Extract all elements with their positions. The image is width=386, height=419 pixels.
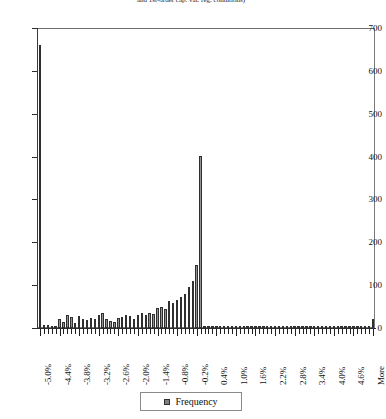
- x-tick-mark: [279, 329, 280, 334]
- x-tick-mark: [142, 329, 143, 334]
- x-tick-label: 2.2%: [279, 367, 288, 385]
- bar: [129, 316, 131, 328]
- x-tick-label: -0.8%: [181, 364, 190, 385]
- bar-series-frequency: [38, 28, 375, 328]
- bar: [215, 326, 217, 328]
- x-tick-mark: [99, 329, 100, 336]
- chart-legend: Frequency: [140, 392, 242, 411]
- bar: [333, 326, 335, 328]
- x-tick-label: -2.0%: [142, 364, 151, 385]
- bar: [62, 322, 64, 328]
- x-tick-mark: [134, 329, 135, 334]
- bar: [109, 321, 111, 328]
- bar: [133, 319, 135, 328]
- bar: [325, 326, 327, 328]
- x-tick-mark: [138, 329, 139, 336]
- bar: [270, 326, 272, 328]
- bar: [313, 326, 315, 328]
- x-tick-mark: [103, 329, 104, 334]
- bar: [231, 326, 233, 328]
- x-tick-mark: [283, 329, 284, 334]
- x-tick-mark: [326, 329, 327, 334]
- bar: [137, 315, 139, 328]
- x-tick-label: -4.4%: [64, 364, 73, 385]
- x-tick-mark: [60, 329, 61, 336]
- bar: [305, 326, 307, 328]
- bar: [74, 323, 76, 328]
- bar: [58, 319, 60, 328]
- x-tick-label: 4.6%: [357, 367, 366, 385]
- bar: [145, 315, 147, 328]
- bar: [309, 326, 311, 328]
- x-tick-mark: [346, 329, 347, 334]
- x-tick-mark: [173, 329, 174, 334]
- bar: [337, 326, 339, 328]
- bar: [293, 326, 295, 328]
- bar: [340, 326, 342, 328]
- x-tick-mark: [299, 329, 300, 334]
- bar: [344, 326, 346, 328]
- x-tick-mark: [267, 329, 268, 334]
- x-tick-mark: [232, 329, 233, 334]
- bar: [156, 308, 158, 328]
- bar: [180, 297, 182, 328]
- x-tick-mark: [342, 329, 343, 334]
- bar: [219, 326, 221, 328]
- bar: [356, 326, 358, 328]
- bar: [86, 320, 88, 328]
- legend-label-frequency: Frequency: [175, 397, 217, 407]
- x-tick-mark: [310, 329, 311, 334]
- x-axis-labels: -5.0%-4.4%-3.8%-3.2%-2.6%-2.0%-1.4%-0.8%…: [0, 337, 382, 389]
- bar: [203, 326, 205, 328]
- bar: [101, 313, 103, 328]
- x-tick-mark: [91, 329, 92, 334]
- x-tick-mark: [122, 329, 123, 334]
- x-tick-mark: [338, 329, 339, 334]
- x-tick-mark: [212, 329, 213, 334]
- x-tick-mark: [306, 329, 307, 334]
- x-tick-mark: [130, 329, 131, 334]
- x-tick-mark: [126, 329, 127, 334]
- x-tick-mark: [287, 329, 288, 334]
- bar: [301, 326, 303, 328]
- x-tick-mark: [318, 329, 319, 334]
- bar: [195, 265, 197, 328]
- bar: [43, 325, 45, 328]
- bar: [90, 318, 92, 328]
- bar: [282, 326, 284, 328]
- x-tick-mark: [107, 329, 108, 334]
- x-tick-label: 0.4%: [220, 367, 229, 385]
- bar: [39, 45, 41, 328]
- x-tick-mark: [193, 329, 194, 334]
- bar: [235, 326, 237, 328]
- bar: [54, 326, 56, 328]
- bar: [82, 319, 84, 328]
- bar: [266, 326, 268, 328]
- x-tick-mark: [208, 329, 209, 334]
- bar: [372, 319, 374, 328]
- x-tick-mark: [181, 329, 182, 334]
- x-tick-mark: [185, 329, 186, 334]
- x-tick-mark: [330, 329, 331, 334]
- bar: [66, 315, 68, 328]
- bar: [78, 316, 80, 328]
- x-tick-mark: [44, 329, 45, 334]
- x-tick-mark: [255, 329, 256, 336]
- x-tick-mark: [114, 329, 115, 334]
- bar: [352, 326, 354, 328]
- bar: [329, 326, 331, 328]
- bar: [152, 314, 154, 328]
- bar: [290, 326, 292, 328]
- bar: [286, 326, 288, 328]
- x-tick-label: -2.6%: [122, 364, 131, 385]
- x-tick-mark: [373, 329, 374, 336]
- bar: [278, 326, 280, 328]
- x-tick-mark: [353, 329, 354, 336]
- x-tick-mark: [67, 329, 68, 334]
- x-tick-mark: [52, 329, 53, 334]
- x-tick-mark: [150, 329, 151, 334]
- bar: [117, 318, 119, 328]
- x-tick-mark: [224, 329, 225, 334]
- x-tick-label: -0.2%: [201, 364, 210, 385]
- bar: [223, 326, 225, 328]
